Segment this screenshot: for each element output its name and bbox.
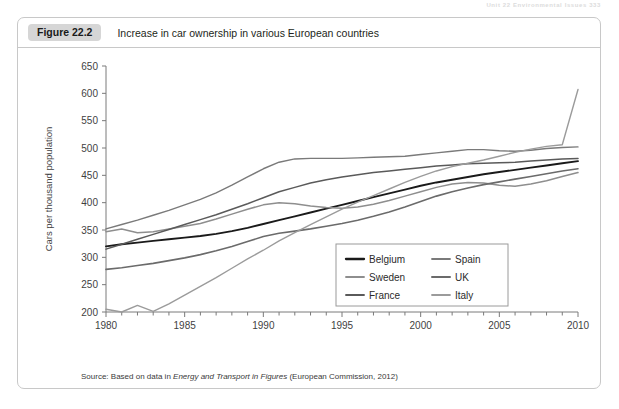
y-tick-label: 550	[81, 115, 98, 126]
legend-box	[336, 244, 508, 306]
x-tick-label: 1990	[252, 320, 275, 331]
figure-title: Increase in car ownership in various Eur…	[117, 27, 378, 39]
y-tick-label: 450	[81, 170, 98, 181]
source-prefix: Source: Based on data in	[81, 372, 173, 381]
series-line-belgium	[106, 161, 578, 246]
figure-number-badge: Figure 22.2	[28, 24, 101, 42]
y-tick-label: 600	[81, 88, 98, 99]
legend-label-spain: Spain	[455, 254, 481, 265]
source-italic-title: Energy and Transport in Figures	[173, 372, 287, 381]
legend-label-france: France	[369, 290, 401, 301]
figure-caption-bar: Figure 22.2 Increase in car ownership in…	[18, 18, 600, 48]
source-note: Source: Based on data in Energy and Tran…	[81, 372, 398, 381]
figure-page: Unit 22 Environmental Issues 333 Figure …	[0, 0, 619, 409]
chart-body: 2002503003504004505005506006501980198519…	[18, 48, 600, 390]
y-tick-label: 500	[81, 143, 98, 154]
x-tick-label: 2005	[488, 320, 511, 331]
y-tick-label: 200	[81, 307, 98, 318]
running-header: Unit 22 Environmental Issues 333	[486, 2, 601, 8]
line-chart: 2002503003504004505005506006501980198519…	[18, 48, 602, 360]
y-tick-label: 400	[81, 197, 98, 208]
y-tick-label: 300	[81, 252, 98, 263]
series-line-spain	[106, 147, 578, 229]
y-tick-label: 650	[81, 61, 98, 72]
figure-panel: Figure 22.2 Increase in car ownership in…	[17, 17, 601, 389]
y-tick-label: 250	[81, 279, 98, 290]
series-line-france	[106, 158, 578, 249]
source-suffix: (European Commission, 2012)	[287, 372, 398, 381]
legend-label-italy: Italy	[455, 290, 473, 301]
legend-label-uk: UK	[455, 272, 469, 283]
y-tick-label: 350	[81, 225, 98, 236]
y-axis-title: Cars per thousand population	[43, 127, 54, 252]
x-tick-label: 1995	[331, 320, 354, 331]
x-tick-label: 2010	[567, 320, 590, 331]
x-tick-label: 1980	[95, 320, 118, 331]
x-tick-label: 2000	[410, 320, 433, 331]
legend-label-sweden: Sweden	[369, 272, 405, 283]
legend-label-belgium: Belgium	[369, 254, 405, 265]
x-tick-label: 1985	[174, 320, 197, 331]
